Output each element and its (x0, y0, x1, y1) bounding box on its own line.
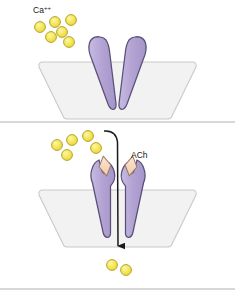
ion-channel-figure: Ca++ ACh (0, 0, 235, 296)
calcium-ion (107, 260, 118, 271)
figure-canvas: Ca++ ACh (0, 0, 235, 296)
cell-membrane (39, 62, 196, 119)
ach-label: ACh (131, 150, 148, 160)
calcium-ion (121, 265, 132, 276)
calcium-ion (35, 22, 46, 33)
calcium-ion (67, 135, 78, 146)
calcium-ion (50, 17, 61, 28)
calcium-ion (91, 143, 102, 154)
calcium-ion (66, 15, 77, 26)
calcium-ion (62, 150, 73, 161)
calcium-ion (83, 131, 94, 142)
calcium-ion (52, 140, 63, 151)
calcium-ion (64, 37, 75, 48)
calcium-ion (57, 27, 68, 38)
calcium-ion (46, 32, 57, 43)
